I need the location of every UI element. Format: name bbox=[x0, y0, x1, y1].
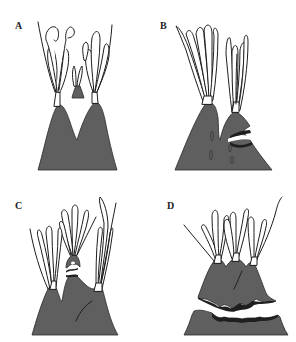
panel-b: B bbox=[148, 0, 296, 171]
panel-c-illustration bbox=[0, 171, 148, 342]
panel-c: C bbox=[0, 171, 148, 342]
colony-body bbox=[38, 102, 117, 170]
upper-colony-body bbox=[198, 259, 276, 309]
panel-d-illustration bbox=[148, 171, 296, 342]
colony-body bbox=[32, 275, 118, 335]
panel-a: A bbox=[0, 0, 148, 171]
panel-d: D bbox=[148, 171, 296, 342]
detached-bud bbox=[72, 86, 84, 98]
lower-colony-base bbox=[184, 310, 288, 335]
panel-b-illustration bbox=[148, 0, 296, 171]
panel-a-illustration bbox=[0, 0, 148, 171]
colony-body bbox=[175, 103, 272, 170]
